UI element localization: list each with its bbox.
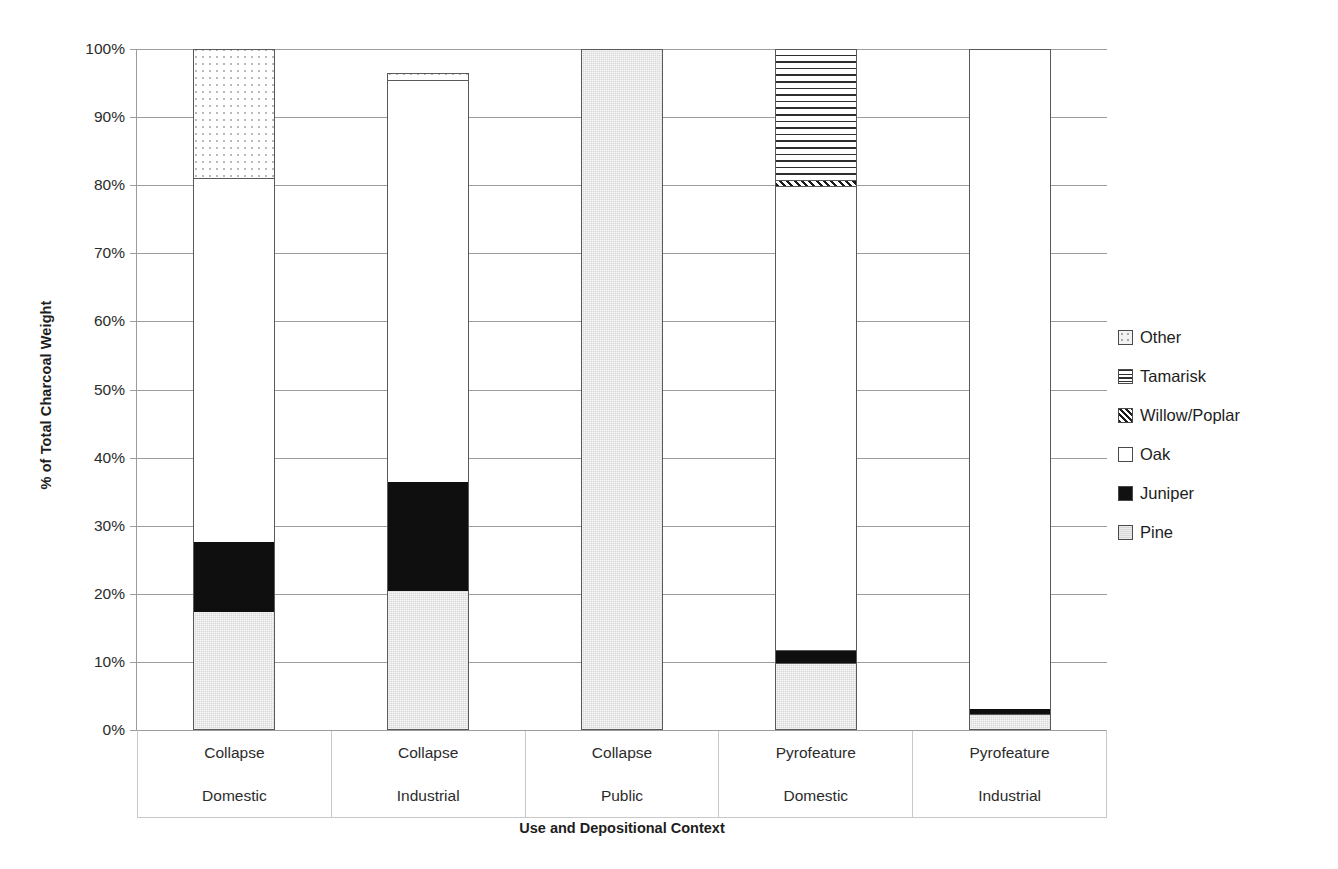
x-axis-label-primary: Collapse (526, 731, 719, 774)
y-axis-tick-label: 80% (55, 176, 125, 194)
y-axis-tick (130, 594, 137, 595)
legend-item-oak[interactable]: Oak (1118, 435, 1328, 474)
bar-segment-pine (582, 49, 662, 729)
bar-segment-juniper (776, 650, 856, 663)
bar-segment-juniper (388, 482, 468, 591)
bar-collapse-public (581, 49, 663, 730)
bar-segment-other (194, 49, 274, 178)
y-axis-tick (130, 730, 137, 731)
legend-label: Oak (1140, 445, 1170, 464)
legend-item-tamarisk[interactable]: Tamarisk (1118, 357, 1328, 396)
legend-label: Willow/Poplar (1140, 406, 1240, 425)
legend-swatch-icon (1118, 486, 1133, 501)
y-axis-tick-label-wrap: 0% (55, 730, 127, 748)
x-axis-category-cell: CollapseDomestic (138, 731, 332, 817)
y-axis-tick (130, 458, 137, 459)
y-axis-tick-label: 90% (55, 108, 125, 126)
y-axis-tick-label: 60% (55, 312, 125, 330)
y-axis-tick (130, 253, 137, 254)
x-axis-label-secondary: Domestic (138, 774, 331, 817)
y-axis-tick (130, 185, 137, 186)
bar-segment-oak (388, 80, 468, 482)
y-axis-tick-label: 50% (55, 381, 125, 399)
bar-pyrofeature-domestic (775, 49, 857, 730)
legend-item-pine[interactable]: Pine (1118, 513, 1328, 552)
legend-swatch-icon (1118, 447, 1133, 462)
x-axis-category-cell: CollapsePublic (526, 731, 720, 817)
x-axis-label-secondary: Domestic (719, 774, 912, 817)
y-axis-tick-label-wrap: 80% (55, 185, 127, 203)
legend-swatch-icon (1118, 330, 1133, 345)
y-axis-tick-label-wrap: 40% (55, 458, 127, 476)
x-axis-label-primary: Pyrofeature (719, 731, 912, 774)
bar-collapse-domestic (193, 49, 275, 730)
x-axis-label-primary: Collapse (332, 731, 525, 774)
y-axis-tick-label-wrap: 90% (55, 117, 127, 135)
legend-item-willow-poplar[interactable]: Willow/Poplar (1118, 396, 1328, 435)
y-axis-tick-label: 40% (55, 449, 125, 467)
bar-segment-pine (388, 591, 468, 729)
bar-segment-willow-poplar (776, 180, 856, 186)
y-axis-title-text: % of Total Charcoal Weight (38, 255, 54, 535)
bar-segment-other (388, 73, 468, 80)
y-axis-tick-label: 30% (55, 517, 125, 535)
x-axis-label-primary: Collapse (138, 731, 331, 774)
legend-label: Juniper (1140, 484, 1194, 503)
bar-collapse-industrial (387, 73, 469, 730)
legend-swatch-icon (1118, 408, 1133, 423)
legend-label: Other (1140, 328, 1181, 347)
legend-label: Pine (1140, 523, 1173, 542)
y-axis-tick-label-wrap: 10% (55, 662, 127, 680)
legend-item-juniper[interactable]: Juniper (1118, 474, 1328, 513)
legend-swatch-icon (1118, 525, 1133, 540)
x-axis-label-primary: Pyrofeature (913, 731, 1106, 774)
y-axis-tick-label: 0% (55, 721, 125, 739)
y-axis-tick-label: 100% (55, 40, 125, 58)
y-axis-tick-label-wrap: 60% (55, 321, 127, 339)
bar-segment-pine (970, 714, 1050, 729)
x-axis-label-secondary: Public (526, 774, 719, 817)
x-axis-title: Use and Depositional Context (137, 820, 1107, 836)
y-axis-tick-label-wrap: 100% (55, 49, 127, 67)
x-axis-category-cell: PyrofeatureDomestic (719, 731, 913, 817)
y-axis-tick (130, 526, 137, 527)
bar-pyrofeature-industrial (969, 49, 1051, 730)
y-axis-tick-label-wrap: 50% (55, 390, 127, 408)
y-axis-tick-label-wrap: 20% (55, 594, 127, 612)
y-axis-tick (130, 117, 137, 118)
bar-segment-oak (776, 186, 856, 650)
bar-segment-juniper (970, 709, 1050, 714)
x-axis-category-cell: PyrofeatureIndustrial (913, 731, 1106, 817)
y-axis-tick-label: 10% (55, 653, 125, 671)
y-axis-tick (130, 321, 137, 322)
plot-area (137, 49, 1107, 730)
y-axis-tick (130, 390, 137, 391)
x-axis-label-secondary: Industrial (332, 774, 525, 817)
y-axis-tick (130, 49, 137, 50)
x-axis-category-cell: CollapseIndustrial (332, 731, 526, 817)
bar-segment-juniper (194, 542, 274, 612)
bar-segment-tamarisk (776, 49, 856, 180)
bar-segment-pine (194, 612, 274, 729)
y-axis-tick-label-wrap: 30% (55, 526, 127, 544)
x-axis-label-secondary: Industrial (913, 774, 1106, 817)
legend-swatch-icon (1118, 369, 1133, 384)
bar-segment-pine (776, 663, 856, 729)
legend-item-other[interactable]: Other (1118, 318, 1328, 357)
bar-segment-oak (194, 178, 274, 542)
y-axis-tick-label: 20% (55, 585, 125, 603)
x-axis-category-labels: CollapseDomesticCollapseIndustrialCollap… (137, 730, 1107, 818)
y-axis-tick-label: 70% (55, 244, 125, 262)
y-axis-tick-label-wrap: 70% (55, 253, 127, 271)
chart-legend: OtherTamariskWillow/PoplarOakJuniperPine (1118, 318, 1328, 552)
stacked-bar-chart-figure: % of Total Charcoal Weight 100%90%80%70%… (0, 0, 1338, 869)
y-axis-tick (130, 662, 137, 663)
bar-segment-oak (970, 49, 1050, 709)
legend-label: Tamarisk (1140, 367, 1206, 386)
